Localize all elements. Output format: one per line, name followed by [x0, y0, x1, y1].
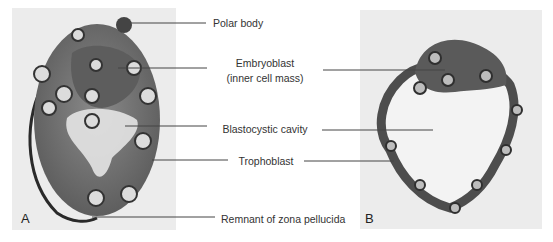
label-zona-remnant: Remnant of zona pellucida — [221, 213, 345, 226]
blastocyst-b-image — [360, 10, 542, 229]
panel-b-letter: B — [365, 211, 374, 226]
panel-b-micrograph: B — [360, 10, 542, 229]
label-embryoblast: Embryoblast — [236, 57, 294, 70]
label-embryoblast-sub: (inner cell mass) — [226, 72, 303, 85]
label-polar-body: Polar body — [213, 17, 263, 30]
panel-a-micrograph: A — [12, 8, 176, 230]
label-trophoblast: Trophoblast — [238, 155, 293, 168]
label-blastocystic-cavity: Blastocystic cavity — [222, 123, 307, 136]
panel-a-letter: A — [21, 211, 30, 226]
blastocyst-a-image — [12, 8, 176, 230]
blastocyst-figure: A B — [0, 0, 553, 242]
